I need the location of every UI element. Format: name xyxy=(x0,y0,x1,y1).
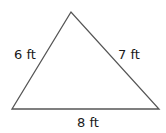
left-side-label: 6 ft xyxy=(14,47,36,62)
triangle-diagram xyxy=(0,0,166,133)
right-side-label: 7 ft xyxy=(118,47,140,62)
bottom-side-label: 8 ft xyxy=(77,115,99,130)
